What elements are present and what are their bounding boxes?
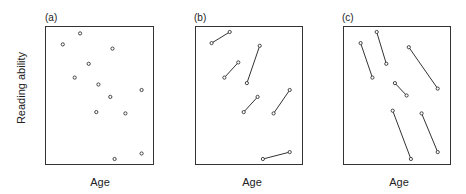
trajectory-segment bbox=[361, 43, 373, 78]
y-axis-label: Reading ability bbox=[15, 51, 27, 124]
data-point bbox=[237, 61, 240, 64]
panel-b-xlabel: Age bbox=[242, 176, 262, 188]
trajectory-segment bbox=[224, 62, 238, 77]
data-point bbox=[261, 157, 264, 160]
data-point bbox=[393, 82, 396, 85]
data-point bbox=[97, 83, 100, 86]
data-point bbox=[228, 30, 231, 33]
panel-a-label: (a) bbox=[45, 12, 57, 23]
panel-c: (c) Age bbox=[342, 12, 451, 188]
data-point bbox=[436, 87, 439, 90]
panel-b: (b) Age bbox=[194, 12, 303, 188]
panel-a: (a) Age bbox=[45, 12, 154, 188]
data-point bbox=[258, 44, 261, 47]
data-point bbox=[391, 109, 394, 112]
trajectory-segment bbox=[422, 113, 438, 152]
panel-b-label: (b) bbox=[194, 12, 206, 23]
trajectory-segment bbox=[409, 47, 438, 88]
panel-c-label: (c) bbox=[342, 12, 354, 23]
data-point bbox=[210, 42, 213, 45]
data-point bbox=[436, 151, 439, 154]
data-point bbox=[409, 157, 412, 160]
data-point bbox=[111, 47, 114, 50]
trajectory-segment bbox=[244, 97, 258, 112]
panel-b-segments bbox=[210, 30, 291, 160]
data-point bbox=[73, 76, 76, 79]
data-point bbox=[272, 112, 275, 115]
data-point bbox=[113, 157, 116, 160]
data-point bbox=[79, 32, 82, 35]
data-point bbox=[87, 62, 90, 65]
trajectory-segment bbox=[395, 83, 407, 95]
trajectory-segment bbox=[377, 32, 387, 64]
data-point bbox=[288, 88, 291, 91]
data-point bbox=[140, 152, 143, 155]
data-point bbox=[375, 30, 378, 33]
data-point bbox=[242, 111, 245, 114]
data-point bbox=[385, 62, 388, 65]
data-point bbox=[407, 46, 410, 49]
data-point bbox=[288, 151, 291, 154]
data-point bbox=[140, 88, 143, 91]
data-point bbox=[61, 43, 64, 46]
data-point bbox=[223, 76, 226, 79]
data-point bbox=[109, 95, 112, 98]
data-point bbox=[420, 112, 423, 115]
panel-a-frame bbox=[46, 27, 154, 165]
figure-canvas: Reading ability (a) Age (b) Age (c) Age bbox=[0, 0, 466, 194]
trajectory-segment bbox=[393, 111, 411, 159]
trajectory-segment bbox=[247, 46, 260, 83]
trajectory-segment bbox=[274, 90, 290, 113]
data-point bbox=[405, 94, 408, 97]
data-point bbox=[124, 112, 127, 115]
data-point bbox=[95, 111, 98, 114]
panel-a-points bbox=[61, 32, 143, 161]
panel-c-segments bbox=[359, 30, 439, 160]
data-point bbox=[256, 95, 259, 98]
data-point bbox=[371, 76, 374, 79]
data-point bbox=[359, 42, 362, 45]
panel-a-xlabel: Age bbox=[90, 176, 110, 188]
trajectory-segment bbox=[212, 32, 230, 43]
data-point bbox=[245, 82, 248, 85]
trajectory-segment bbox=[263, 152, 290, 159]
panel-c-xlabel: Age bbox=[389, 176, 409, 188]
